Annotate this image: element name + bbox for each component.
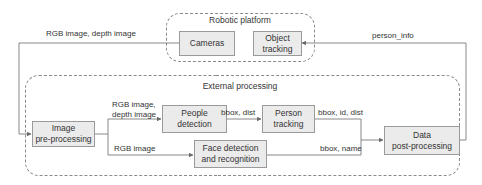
edge-label-bbox-name: bbox, name [320,144,362,154]
data-postprocessing-node: Data post-processing [384,126,460,155]
edge-label-person-info: person_info [372,31,414,41]
object-tracking-node: Object tracking [253,31,302,56]
edge-label-bbox-dist: bbox, dist [221,108,255,118]
image-preprocessing-node: Image pre-processing [32,121,95,147]
face-detection-node: Face detection and recognition [194,140,267,168]
robotic-platform-title: Robotic platform [209,15,271,25]
external-processing-title: External processing [203,81,278,91]
people-detection-node: People detection [162,105,227,133]
edge-label-rgb-depth-people: RGB image, depth image [112,100,156,119]
edge-label-bbox-id-dist: bbox, id, dist [318,108,363,118]
person-tracking-node: Person tracking [262,105,315,133]
edge-label-rgb-face: RGB image [114,144,155,154]
cameras-node: Cameras [179,31,235,56]
edge-label-rgb-depth-top: RGB image, depth image [46,29,136,39]
